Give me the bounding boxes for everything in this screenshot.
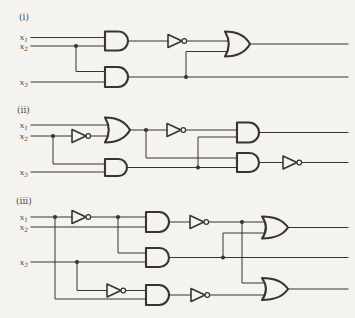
circuit-label-i: (i): [19, 12, 29, 22]
not-gate-bubble-icon: [121, 288, 126, 293]
junction-dot: [144, 128, 148, 132]
and-gate: [105, 32, 128, 51]
not-gate-bubble-icon: [297, 160, 302, 165]
junction-dot: [116, 215, 120, 219]
not-gate-bubble-icon: [204, 220, 209, 225]
not-gate-bubble-icon: [182, 39, 187, 44]
logic-circuit-diagram: (i)x1x2x3(ii)x1x2x3(iii)x1x2x3: [0, 0, 355, 318]
and-gate: [237, 153, 259, 172]
and-gate: [146, 285, 169, 305]
junction-dot: [184, 75, 188, 79]
junction-dot: [51, 134, 55, 138]
junction-dot: [53, 215, 57, 219]
junction-dot: [74, 44, 78, 48]
and-gate: [105, 159, 127, 176]
and-gate: [146, 248, 169, 267]
and-gate: [146, 212, 169, 232]
circuit-label-ii: (ii): [17, 105, 30, 115]
junction-dot: [75, 260, 79, 264]
circuit-label-iii: (iii): [16, 196, 32, 206]
junction-dot: [221, 255, 225, 259]
and-gate: [237, 123, 259, 143]
not-gate-bubble-icon: [205, 293, 210, 298]
not-gate-bubble-icon: [86, 215, 91, 220]
junction-dot: [240, 220, 244, 224]
and-gate: [105, 67, 128, 87]
not-gate-bubble-icon: [86, 134, 91, 139]
junction-dot: [196, 165, 200, 169]
scanned-figure-page: (i)x1x2x3(ii)x1x2x3(iii)x1x2x3: [0, 0, 355, 318]
not-gate-bubble-icon: [181, 128, 186, 133]
